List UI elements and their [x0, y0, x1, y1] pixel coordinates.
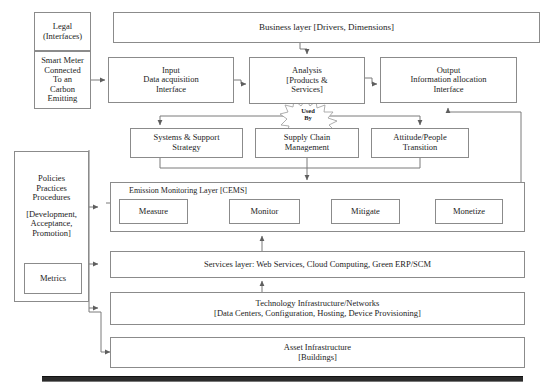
arrow-business-to-analysis: [300, 43, 307, 54]
services-layer-label: Services layer: Web Services, Cloud Comp…: [202, 260, 433, 270]
asset-line-2: [Buildings]: [282, 353, 353, 363]
used-by-label: Used By: [288, 108, 328, 122]
bottom-rule: [42, 376, 523, 382]
business-layer-box[interactable]: Business layer [Drivers, Dimensions]: [113, 12, 540, 43]
technology-layer-box[interactable]: Technology Infrastructure/Networks [Data…: [110, 292, 525, 325]
cems-layer-title: Emission Monitoring Layer [CEMS]: [111, 186, 542, 195]
arrow-analysis-to-output: [365, 78, 377, 84]
supply-line-2: Management: [282, 143, 333, 153]
systems-line-2: Strategy: [151, 143, 221, 153]
attitude-people-transition-box[interactable]: Attitude/People Transition: [371, 128, 469, 158]
input-interface-box[interactable]: Input Data acquisition Interface: [108, 57, 234, 103]
technology-line-2: [Data Centers, Configuration, Hosting, D…: [212, 309, 423, 319]
bus-policies-lower: [89, 312, 101, 352]
monitor-label: Monitor: [249, 207, 281, 217]
policies-line-6: Promotion]: [24, 229, 79, 239]
policies-line-3: Procedures: [24, 193, 79, 203]
analysis-box[interactable]: Analysis [Products & Services]: [249, 57, 365, 104]
cems-stage-monetize[interactable]: Monetize: [435, 199, 503, 224]
smart-meter-line-5: Emitting: [39, 94, 86, 104]
line-attitude-down: [307, 158, 420, 168]
services-layer-box[interactable]: Services layer: Web Services, Cloud Comp…: [110, 251, 525, 278]
measure-label: Measure: [137, 207, 170, 217]
asset-layer-box[interactable]: Asset Infrastructure [Buildings]: [110, 337, 525, 368]
metrics-label: Metrics: [38, 274, 68, 284]
legal-line-2: (Interfaces): [41, 32, 84, 42]
cems-stage-mitigate[interactable]: Mitigate: [331, 199, 400, 224]
supply-chain-management-box[interactable]: Supply Chain Management: [255, 128, 359, 158]
monetize-label: Monetize: [451, 207, 487, 217]
output-interface-box[interactable]: Output Information allocation Interface: [380, 57, 517, 103]
line-systems-down: [160, 158, 307, 168]
legal-interfaces-box[interactable]: Legal (Interfaces): [34, 12, 91, 51]
metrics-box[interactable]: Metrics: [24, 263, 82, 294]
cems-stage-monitor[interactable]: Monitor: [229, 199, 300, 224]
cems-stage-measure[interactable]: Measure: [119, 199, 188, 224]
analysis-line-3: Services]: [284, 85, 329, 95]
business-layer-label: Business layer [Drivers, Dimensions]: [257, 22, 396, 32]
architecture-diagram: Legal (Interfaces) Smart Meter Connected…: [0, 0, 543, 389]
arrow-input-to-analysis: [234, 80, 246, 84]
input-line-3: Interface: [141, 85, 200, 95]
mitigate-label: Mitigate: [349, 207, 382, 217]
attitude-line-2: Transition: [391, 143, 448, 153]
output-line-3: Interface: [408, 85, 488, 95]
used-by-line-2: By: [288, 115, 328, 122]
systems-support-strategy-box[interactable]: Systems & Support Strategy: [130, 128, 243, 158]
smart-meter-box[interactable]: Smart Meter Connected To an Carbon Emitt…: [34, 51, 91, 109]
